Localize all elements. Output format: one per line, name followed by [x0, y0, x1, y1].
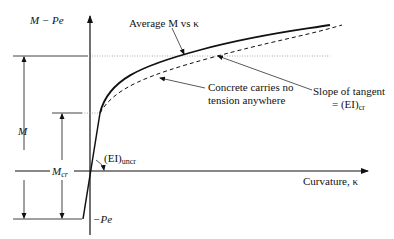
- y-axis-label: M − Pe: [29, 14, 64, 26]
- average-leader: [172, 28, 184, 54]
- tangent-label-line1: Slope of tangent: [313, 85, 385, 97]
- uncracked-line: [83, 113, 100, 219]
- uncracked-angle-arc: [96, 160, 104, 170]
- average-curve-label: Average M vs κ: [129, 17, 199, 29]
- x-axis-label: Curvature, κ: [303, 175, 358, 187]
- moment-curvature-diagram: M − Pe Average M vs κ Concrete carries n…: [0, 0, 394, 239]
- uncracked-label: (EI)uncr: [104, 152, 136, 166]
- no-tension-label-line1: Concrete carries no: [208, 81, 294, 93]
- no-tension-leader: [160, 78, 205, 88]
- M-dimension-label: M: [17, 125, 28, 137]
- tangent-label-line2: = (EI)cr: [332, 98, 365, 112]
- no-tension-label-line2: tension anywhere: [208, 94, 285, 106]
- neg-Pe-label: −Pe: [93, 213, 112, 225]
